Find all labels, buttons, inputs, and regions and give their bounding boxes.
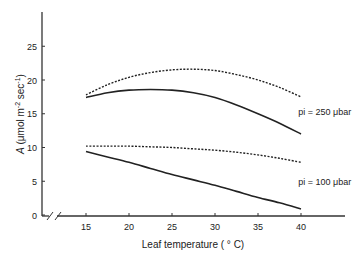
- y-tick-label: 25: [27, 42, 37, 52]
- x-tick-label: 35: [253, 222, 263, 232]
- curve-label: pi = 250 μbar: [298, 107, 351, 117]
- curve-labels: pi = 250 μbarpi = 100 μbar: [298, 107, 351, 187]
- x-axis-label: Leaf temperature ( ° C): [142, 239, 244, 250]
- x-tick-label: 30: [210, 222, 220, 232]
- y-tick-label: 20: [27, 76, 37, 86]
- x-tick-label: 15: [81, 222, 91, 232]
- curve-label: pi = 100 μbar: [298, 177, 351, 187]
- chart-container: 0510152025 152025303540 Leaf temperature…: [0, 0, 355, 256]
- y-axis: 0510152025: [27, 12, 45, 221]
- solid-curve: [86, 152, 301, 209]
- x-axis: 152025303540: [42, 212, 345, 232]
- y-tick-label: 15: [27, 109, 37, 119]
- y-tick-label: 5: [32, 177, 37, 187]
- y-tick-label: 0: [32, 211, 37, 221]
- solid-curve: [86, 89, 301, 134]
- x-tick-label: 20: [124, 222, 134, 232]
- x-tick-label: 25: [167, 222, 177, 232]
- y-tick-label: 10: [27, 143, 37, 153]
- plot-series: [86, 69, 301, 209]
- x-tick-label: 40: [296, 222, 306, 232]
- y-axis-label: A (μmol m-2 sec-1): [14, 74, 26, 155]
